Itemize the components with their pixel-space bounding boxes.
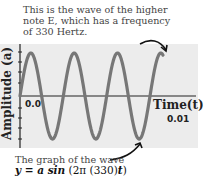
x-tick-end: 0.01 [167,114,189,124]
x-axis-label: Time(t) [153,98,204,112]
wave-chart [0,0,206,179]
x-tick-start: 0.0 [25,99,41,109]
wave-formula: y = a sin (2π (330)t) [15,165,175,176]
y-axis-label: Amplitude (a) [0,47,14,140]
annotation-bottom: The graph of the wave y = a sin (2π (330… [15,154,175,176]
